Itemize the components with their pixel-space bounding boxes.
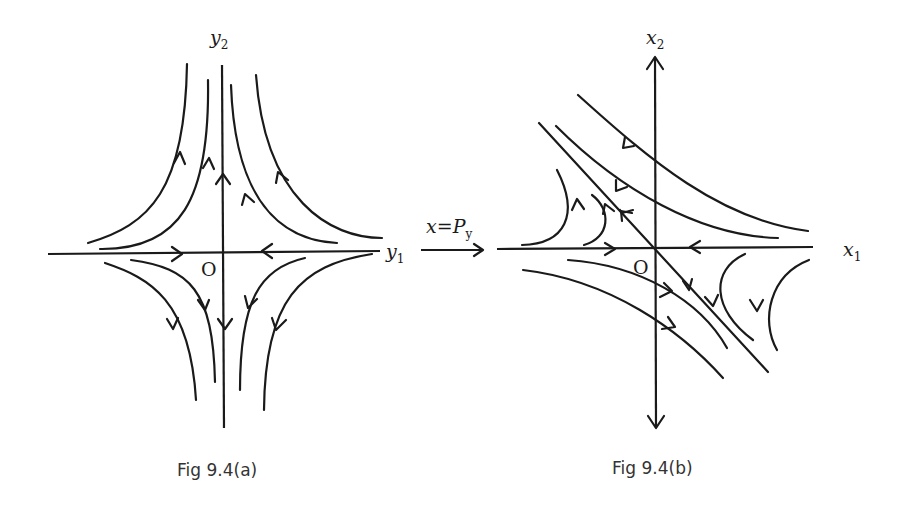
arrow-icon [662,317,675,329]
trajectory [100,80,208,249]
caption-a: Fig 9.4(a) [177,460,257,480]
trajectory [264,254,372,410]
transform-label: x=Py [426,215,472,241]
arrow-icon [203,158,214,169]
trajectory [584,195,605,245]
arrow-icon [172,247,182,261]
arrow-icon [218,319,232,329]
trajectory [240,258,305,390]
y2-axis-label: y2 [209,26,228,52]
arrow-icon [167,318,178,329]
figure-b: x2 x1 O Fig 9.4(b) [497,26,861,478]
trajectory [256,75,382,238]
y1-axis-label: y1 [385,240,404,266]
x2-axis-label: x2 [646,26,664,52]
origin-label-b: O [633,256,649,278]
y2-axis [222,65,224,428]
arrow-icon [750,300,763,311]
trajectory [523,270,723,378]
y1-axis [48,251,380,254]
figure-a: y2 y1 O Fig 9.4(a) [48,26,404,480]
diagram-canvas: y2 y1 O Fig 9.4(a) x=Py [0,0,905,507]
trajectory [88,64,187,243]
arrow-icon [242,194,254,205]
trajectory [105,263,196,400]
x1-axis-label: x1 [843,238,861,264]
trajectory [522,170,568,245]
trajectory [769,260,809,350]
transform-arrow: x=Py [421,215,483,256]
origin-label-a: O [201,258,217,280]
caption-b: Fig 9.4(b) [612,458,693,478]
x2-axis [655,57,656,428]
trajectory [556,126,778,238]
arrow-icon [572,199,584,210]
